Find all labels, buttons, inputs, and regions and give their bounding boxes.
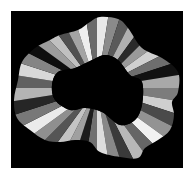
abstract-ring-artwork	[0, 0, 189, 172]
